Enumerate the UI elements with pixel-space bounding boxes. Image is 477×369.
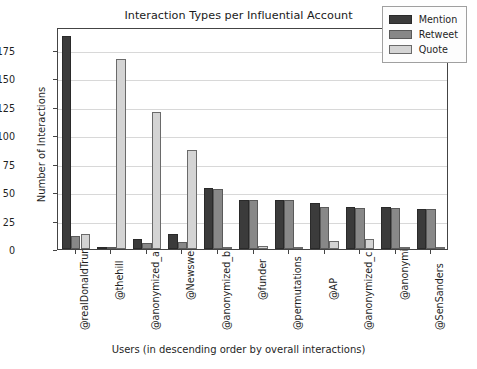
bar-quote xyxy=(152,112,161,249)
bar-quote xyxy=(436,247,445,249)
bar-group xyxy=(346,29,374,249)
bar-chart-figure: Interaction Types per Influential Accoun… xyxy=(0,0,477,369)
bar-group xyxy=(275,29,303,249)
bar-quote xyxy=(294,247,303,249)
chart-legend: MentionRetweetQuote xyxy=(382,6,467,63)
bar-quote xyxy=(187,150,196,249)
bar-retweet xyxy=(213,189,222,249)
y-tick-label: 50 xyxy=(0,188,15,199)
bar-group xyxy=(133,29,161,249)
legend-label: Mention xyxy=(419,14,458,25)
bar-mention xyxy=(346,207,355,249)
x-tick-mark xyxy=(324,250,325,254)
y-tick-mark xyxy=(53,250,57,251)
bar-retweet xyxy=(107,247,116,249)
x-tick-label: @anonymized_c xyxy=(363,252,374,330)
bar-group xyxy=(310,29,338,249)
bar-retweet xyxy=(320,207,329,249)
x-tick-mark xyxy=(181,250,182,254)
bar-retweet xyxy=(355,208,364,249)
legend-label: Retweet xyxy=(419,29,458,40)
y-tick-label: 75 xyxy=(0,159,15,170)
y-tick-label: 125 xyxy=(0,102,15,113)
x-tick-label: @thehill xyxy=(114,261,125,300)
x-tick-label: @anonymized_b xyxy=(221,251,232,330)
bar-quote xyxy=(365,239,374,249)
x-tick-mark xyxy=(110,250,111,254)
x-tick-mark xyxy=(217,250,218,254)
bar-mention xyxy=(310,203,319,249)
x-axis-label: Users (in descending order by overall in… xyxy=(0,344,477,355)
y-tick-label: 100 xyxy=(0,131,15,142)
bar-retweet xyxy=(426,209,435,249)
x-tick-mark xyxy=(75,250,76,254)
x-tick-label: @permutations xyxy=(292,256,303,330)
bar-retweet xyxy=(249,200,258,249)
bar-group xyxy=(62,29,90,249)
legend-swatch-quote xyxy=(389,45,412,54)
bar-retweet xyxy=(391,208,400,249)
y-tick-label: 150 xyxy=(0,74,15,85)
bar-mention xyxy=(62,36,71,249)
x-tick-mark xyxy=(146,250,147,254)
bar-mention xyxy=(239,200,248,249)
bar-quote xyxy=(329,241,338,249)
bar-quote xyxy=(223,247,232,249)
x-tick-label: @AP xyxy=(328,278,339,300)
bar-mention xyxy=(275,200,284,249)
bar-quote xyxy=(258,246,267,249)
x-tick-mark xyxy=(395,250,396,254)
x-tick-label: @realDonaldTrump xyxy=(79,238,90,330)
legend-item-mention: Mention xyxy=(389,12,458,27)
y-tick-label: 25 xyxy=(0,216,15,227)
bar-mention xyxy=(133,239,142,249)
legend-item-retweet: Retweet xyxy=(389,27,458,42)
bar-group xyxy=(204,29,232,249)
legend-item-quote: Quote xyxy=(389,42,458,57)
x-tick-label: @funder xyxy=(257,259,268,300)
legend-swatch-retweet xyxy=(389,30,412,39)
bar-retweet xyxy=(284,200,293,249)
bar-mention xyxy=(417,209,426,249)
bar-mention xyxy=(97,247,106,249)
x-tick-mark xyxy=(288,250,289,254)
y-tick-label: 175 xyxy=(0,45,15,56)
bar-quote xyxy=(116,59,125,249)
y-axis-label: Number of Interactions xyxy=(36,34,47,256)
x-tick-mark xyxy=(430,250,431,254)
x-tick-mark xyxy=(359,250,360,254)
bar-group xyxy=(97,29,125,249)
legend-label: Quote xyxy=(419,44,448,55)
bar-quote xyxy=(81,234,90,249)
x-tick-label: @anonymized_a xyxy=(150,251,161,330)
bar-mention xyxy=(168,234,177,249)
x-tick-mark xyxy=(253,250,254,254)
bar-mention xyxy=(204,188,213,249)
bar-group xyxy=(239,29,267,249)
bar-retweet xyxy=(178,242,187,249)
legend-swatch-mention xyxy=(389,15,412,24)
bar-retweet xyxy=(142,243,151,249)
bar-group xyxy=(168,29,196,249)
bar-quote xyxy=(400,247,409,249)
x-tick-label: @SenSanders xyxy=(434,263,445,330)
y-tick-label: 0 xyxy=(0,245,15,256)
bar-mention xyxy=(381,207,390,249)
bar-retweet xyxy=(71,236,80,249)
